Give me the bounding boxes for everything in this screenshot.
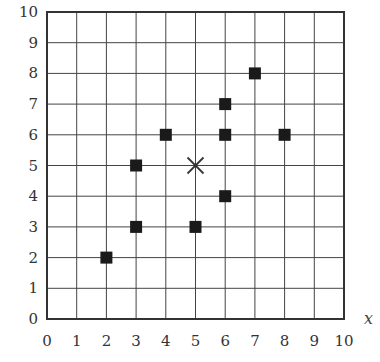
x-tick-label: 7 (250, 332, 260, 350)
y-tick-label: 3 (28, 218, 38, 236)
x-axis-label: x (364, 309, 373, 328)
square-marker (279, 129, 291, 141)
square-marker (160, 129, 172, 141)
square-marker (219, 190, 231, 202)
x-tick-label: 5 (191, 332, 201, 350)
square-marker (130, 160, 142, 172)
x-tick-label: 10 (334, 332, 353, 350)
y-tick-label: 2 (28, 249, 38, 267)
x-tick-label: 6 (220, 332, 230, 350)
y-tick-label: 10 (19, 3, 38, 21)
square-marker (130, 221, 142, 233)
x-tick-label: 4 (161, 332, 171, 350)
y-tick-label: 6 (28, 126, 38, 144)
x-tick-label: 9 (310, 332, 320, 350)
y-tick-label: 8 (28, 64, 38, 82)
x-tick-label: 3 (131, 332, 141, 350)
y-tick-label: 7 (28, 95, 38, 113)
x-tick-label: 1 (72, 332, 82, 350)
square-marker (219, 129, 231, 141)
square-marker (190, 221, 202, 233)
square-marker (249, 67, 261, 79)
y-tick-label: 0 (28, 310, 38, 328)
x-tick-label: 8 (280, 332, 290, 350)
x-tick-label: 2 (102, 332, 112, 350)
y-tick-label: 5 (28, 157, 38, 175)
y-axis-ticks: 012345678910 (19, 3, 38, 328)
y-tick-label: 9 (28, 34, 38, 52)
x-tick-label: 0 (42, 332, 52, 350)
scatter-chart: 012345678910 012345678910 x (0, 0, 380, 362)
y-tick-label: 4 (28, 187, 38, 205)
x-axis-ticks: 012345678910 (42, 332, 353, 350)
y-tick-label: 1 (28, 279, 38, 297)
square-marker (219, 98, 231, 110)
square-marker (100, 252, 112, 264)
